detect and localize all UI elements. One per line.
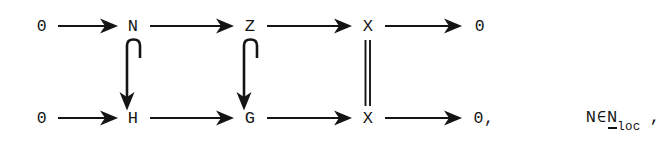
arrow-bottom-G-to-X xyxy=(267,111,352,126)
arrow-top-Z-to-X xyxy=(267,19,352,34)
node-top-0-right: 0 xyxy=(475,18,485,35)
arrow-bottom-H-to-G xyxy=(150,111,234,126)
arrow-top-N-to-Z xyxy=(150,19,234,34)
arrow-top-X-to-0 xyxy=(385,19,462,34)
element-of-icon: ∈ xyxy=(596,110,607,127)
side-condition: N∈Nloc, xyxy=(545,92,660,144)
node-bottom-0-left: 0 xyxy=(37,110,47,127)
node-bottom-G: G xyxy=(245,110,256,127)
condition-comma: , xyxy=(641,108,660,127)
connector-N-to-H xyxy=(120,40,141,111)
arrow-bottom-0-to-H xyxy=(58,111,118,126)
node-top-X: X xyxy=(363,18,374,35)
arrow-bottom-X-to-0 xyxy=(385,111,462,126)
node-top-N: N xyxy=(128,18,139,35)
node-top-0-left: 0 xyxy=(37,18,47,35)
commutative-diagram: 0 N Z X 0 0 H G X 0, N∈Nloc, xyxy=(0,0,663,144)
node-bottom-0-right: 0, xyxy=(474,110,495,127)
node-bottom-H: H xyxy=(128,110,139,127)
condition-set-subscript: loc xyxy=(617,120,640,134)
arrow-top-0-to-N xyxy=(58,19,118,34)
condition-variable: N xyxy=(586,108,596,127)
connector-Z-to-G xyxy=(237,40,258,111)
connector-X-identity xyxy=(366,40,371,106)
node-top-Z: Z xyxy=(245,18,256,35)
node-bottom-X: X xyxy=(363,110,374,127)
condition-set-base: N xyxy=(607,109,617,126)
